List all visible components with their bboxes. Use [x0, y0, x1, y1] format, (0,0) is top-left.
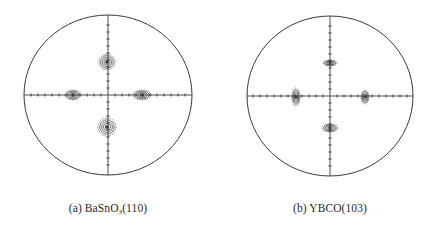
spot-core — [295, 95, 297, 98]
caption-b-prefix: (b) YBCO — [293, 202, 342, 214]
diffraction-spot-top — [323, 60, 337, 66]
spot-core — [140, 94, 143, 96]
spot-core — [364, 96, 366, 99]
caption-a: (a) BaSnO3(110) — [8, 202, 208, 216]
diffraction-spot-right — [361, 90, 369, 104]
caption-b: (b) YBCO(103) — [230, 202, 430, 216]
caption-b-suffix: (103) — [342, 202, 367, 214]
spot-core — [329, 127, 332, 129]
pole-figures — [0, 0, 434, 232]
spot-core — [72, 94, 75, 96]
caption-a-suffix: (110) — [122, 202, 147, 214]
pole-figure-b — [247, 16, 413, 176]
spot-core — [106, 61, 109, 64]
spot-core — [105, 125, 108, 128]
diffraction-spot-top — [99, 54, 115, 70]
pole-figure-a — [24, 15, 192, 175]
spot-core — [329, 62, 332, 64]
diffraction-spot-bottom — [98, 118, 116, 136]
diffraction-spot-left — [292, 88, 300, 106]
caption-a-prefix: (a) BaSnO — [69, 202, 119, 214]
